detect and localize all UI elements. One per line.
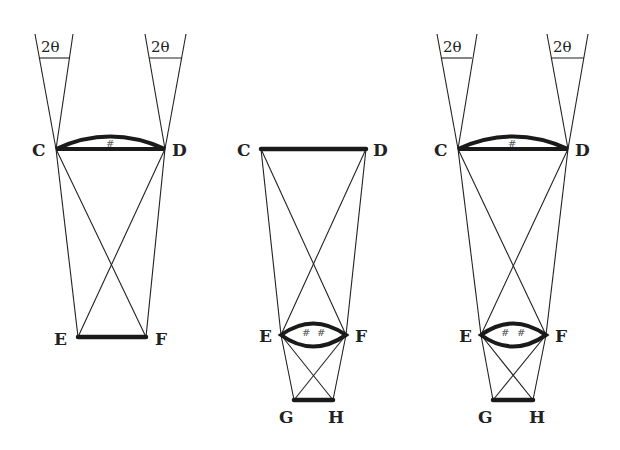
point-label-d: D bbox=[373, 140, 388, 160]
point-label-e: E bbox=[259, 326, 272, 346]
hatch-mark: # bbox=[317, 327, 325, 338]
hatch-mark: # bbox=[508, 138, 516, 149]
point-label-f: F bbox=[355, 326, 367, 346]
point-label-h: H bbox=[529, 407, 545, 427]
point-label-c: C bbox=[32, 140, 46, 160]
hatch-mark: # bbox=[106, 138, 114, 149]
point-label-g: G bbox=[478, 407, 493, 427]
panel-1: 2θ 2θ # C D E F bbox=[32, 34, 187, 349]
point-label-e: E bbox=[459, 326, 472, 346]
point-label-g: G bbox=[279, 407, 294, 427]
angle-label: 2θ bbox=[553, 38, 572, 56]
panel-2: # # C D E F G H bbox=[237, 140, 388, 427]
hatch-mark: # bbox=[517, 327, 525, 338]
hatch-mark: # bbox=[501, 327, 509, 338]
angle-label: 2θ bbox=[151, 38, 170, 56]
lens-ef bbox=[281, 324, 346, 347]
point-label-d: D bbox=[575, 140, 590, 160]
lens-ef bbox=[481, 324, 546, 347]
hatch-mark: # bbox=[302, 327, 310, 338]
point-label-f: F bbox=[555, 326, 567, 346]
point-label-c: C bbox=[237, 140, 251, 160]
point-label-c: C bbox=[434, 140, 448, 160]
angle-label: 2θ bbox=[443, 38, 462, 56]
point-label-f: F bbox=[155, 329, 167, 349]
panel-3: 2θ 2θ # # # C D E F G H bbox=[434, 34, 590, 427]
angle-label: 2θ bbox=[41, 38, 60, 56]
point-label-e: E bbox=[54, 329, 67, 349]
optics-diagram: 2θ 2θ # C D E F # # C D E F G H bbox=[0, 0, 620, 450]
point-label-h: H bbox=[328, 407, 344, 427]
point-label-d: D bbox=[172, 140, 187, 160]
